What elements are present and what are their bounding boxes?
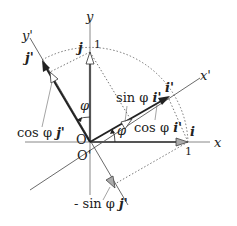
- cos-phi-j-prime-label: cos φ j': [17, 125, 65, 140]
- proj-j-to-iprime: [90, 52, 131, 120]
- vector-j-head: [86, 52, 94, 64]
- origin-prime-label: O': [77, 148, 91, 163]
- y-prime-axis-label: y': [21, 28, 33, 43]
- proj-j-to-jprime: [50, 52, 90, 72]
- x-axis-label: x: [214, 135, 222, 150]
- neg-sin-j-prime-head: [106, 176, 115, 188]
- j-prime-label: j': [22, 50, 34, 65]
- phi-y-label: φ: [80, 98, 90, 113]
- origin-label: O: [76, 132, 87, 147]
- i-prime-label: i': [165, 80, 174, 95]
- x-unit-mark: 1: [185, 145, 192, 158]
- cos-phi-i-prime-label: cos φ i': [134, 120, 182, 135]
- cos-j-prime-head: [50, 72, 58, 83]
- x-prime-axis-label: x': [200, 68, 211, 83]
- j-label: j: [75, 40, 83, 55]
- sin-phi-i-prime-label: sin φ i': [116, 90, 162, 105]
- y-unit-mark: 1: [94, 38, 101, 51]
- y-axis-label: y: [85, 9, 94, 24]
- i-label: i: [190, 124, 195, 139]
- leader-cos-j: [42, 82, 52, 127]
- rotation-diagram: y x x' y' O O' j i i' j' 1 1 φ φ sin φ i…: [0, 0, 237, 226]
- leader-sin-i: [125, 106, 127, 122]
- neg-sin-phi-j-prime-label: - sin φ j': [74, 196, 128, 211]
- phi-x-label: φ: [117, 123, 127, 138]
- proj-i-to-negj: [113, 142, 188, 185]
